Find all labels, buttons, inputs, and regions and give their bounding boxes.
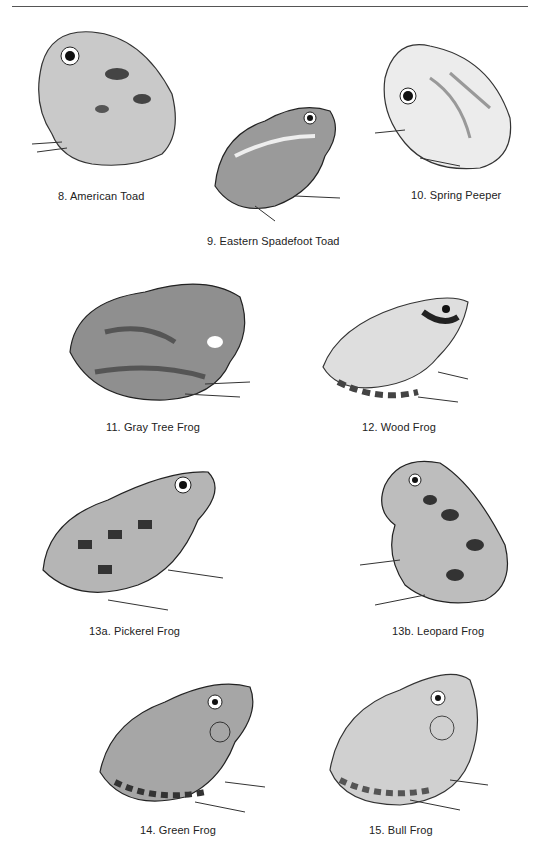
caption-spring-peeper: 10. Spring Peeper: [411, 189, 501, 201]
green-frog-illustration: [95, 672, 265, 817]
caption-bull-frog: 15. Bull Frog: [369, 824, 433, 836]
wood-frog-illustration: [318, 287, 473, 412]
caption-gray-tree-frog: 11. Gray Tree Frog: [106, 421, 200, 433]
american-toad-illustration: [22, 24, 182, 174]
leopard-frog-illustration: [355, 455, 520, 615]
caption-leopard-frog: 13b. Leopard Frog: [392, 625, 484, 637]
caption-american-toad: 8. American Toad: [58, 190, 144, 202]
spring-peeper-illustration: [370, 38, 520, 178]
caption-green-frog: 14. Green Frog: [140, 824, 216, 836]
caption-eastern-spadefoot-toad: 9. Eastern Spadefoot Toad: [207, 235, 340, 247]
gray-tree-frog-illustration: [65, 272, 255, 412]
header-rule: [12, 6, 528, 7]
caption-wood-frog: 12. Wood Frog: [362, 421, 436, 433]
caption-pickerel-frog: 13a. Pickerel Frog: [89, 625, 180, 637]
bull-frog-illustration: [320, 660, 490, 815]
pickerel-frog-illustration: [38, 460, 228, 615]
eastern-spadefoot-toad-illustration: [205, 96, 345, 224]
